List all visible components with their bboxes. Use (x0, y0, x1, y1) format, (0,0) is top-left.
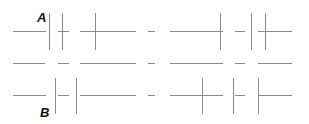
row-bottom (13, 78, 292, 114)
label-b: B (40, 106, 49, 119)
label-a: A (37, 11, 46, 24)
row-top (13, 13, 292, 50)
